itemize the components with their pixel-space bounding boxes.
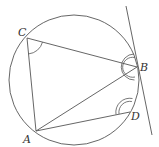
circle-diagram: A B C D	[0, 0, 159, 147]
label-a: A	[22, 133, 31, 146]
circle	[9, 15, 139, 145]
segment-cb	[27, 38, 137, 67]
label-c: C	[18, 26, 27, 39]
segment-ad	[36, 112, 130, 131]
angle-mark-b-inner	[123, 57, 135, 77]
label-d: D	[130, 110, 140, 123]
label-b: B	[139, 61, 148, 74]
angle-mark-c	[29, 42, 43, 54]
segment-ab	[36, 67, 137, 131]
